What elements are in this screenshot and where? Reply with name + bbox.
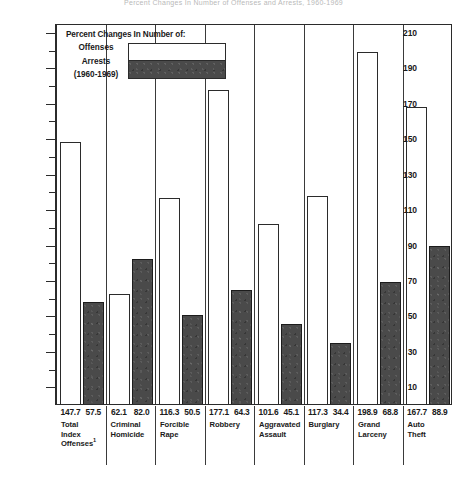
- value-arrests: 50.5: [184, 407, 200, 417]
- value-arrests: 45.1: [283, 407, 299, 417]
- y-axis-label-130: 130: [391, 170, 417, 180]
- bar-offenses-total-index-offenses: [60, 142, 81, 404]
- y-tick-minor-40: [49, 334, 55, 335]
- y-axis-label-50: 50: [391, 311, 417, 321]
- y-axis-label-170: 170: [391, 99, 417, 109]
- category-label-line: Homicide: [111, 430, 156, 440]
- value-arrests: 64.3: [234, 407, 250, 417]
- y-axis: [47, 24, 56, 405]
- value-row: 117.334.4: [304, 407, 354, 417]
- value-row: 147.757.5: [56, 407, 106, 417]
- value-row: 198.968.8: [353, 407, 403, 417]
- category-label-line: Offenses1: [61, 439, 106, 449]
- y-tick-minor-100: [49, 228, 55, 229]
- value-cell-divider: [304, 406, 305, 465]
- y-tick-major-90: [46, 246, 55, 247]
- category-label-line: Total: [61, 420, 106, 430]
- group-divider: [254, 25, 255, 404]
- legend-label-years: (1960-1969): [70, 70, 122, 79]
- group-divider: [106, 25, 107, 404]
- bar-arrests-criminal-homicide: [132, 259, 153, 404]
- y-tick-minor-120: [49, 192, 55, 193]
- y-axis-label-30: 30: [391, 347, 417, 357]
- category-label: ForcibleRape: [155, 417, 205, 439]
- y-axis-label-190: 190: [391, 63, 417, 73]
- value-offenses: 101.6: [259, 407, 279, 417]
- legend-title: Percent Changes In Number of:: [66, 30, 249, 39]
- bar-offenses-grand-larceny: [357, 52, 378, 404]
- y-tick-major-70: [46, 281, 55, 282]
- group-divider: [205, 25, 206, 404]
- value-cell-divider: [403, 406, 404, 465]
- value-offenses: 62.1: [111, 407, 127, 417]
- value-arrests: 88.9: [432, 407, 448, 417]
- value-cell-burglary: 117.334.4Burglary: [304, 405, 354, 475]
- y-tick-major-110: [46, 210, 55, 211]
- y-axis-label-10: 10: [391, 382, 417, 392]
- value-cell-robbery: 177.164.3Robbery: [205, 405, 255, 475]
- legend-labels: Offenses Arrests (1960-1969): [70, 43, 122, 79]
- category-label-line: Criminal: [111, 420, 156, 430]
- category-label-line: Auto: [408, 420, 453, 430]
- y-tick-minor-20: [49, 370, 55, 371]
- offenses-swatch: [129, 44, 225, 61]
- y-tick-major-50: [46, 316, 55, 317]
- chart-title: Percent Changes In Number of Offenses an…: [0, 0, 467, 7]
- value-offenses: 167.7: [407, 407, 427, 417]
- category-label: Robbery: [205, 417, 255, 430]
- value-cell-divider: [155, 406, 156, 465]
- bar-arrests-total-index-offenses: [83, 302, 104, 404]
- y-axis-label-90: 90: [391, 241, 417, 251]
- value-offenses: 116.3: [160, 407, 180, 417]
- bar-arrests-robbery: [231, 290, 252, 404]
- y-tick-major-150: [46, 139, 55, 140]
- y-tick-major-130: [46, 175, 55, 176]
- value-offenses: 147.7: [61, 407, 81, 417]
- value-table: 147.757.5TotalIndexOffenses162.182.0Crim…: [56, 405, 452, 475]
- legend-swatches: [128, 43, 226, 79]
- y-tick-major-210: [46, 33, 55, 34]
- y-tick-minor-180: [49, 86, 55, 87]
- category-label: CriminalHomicide: [106, 417, 156, 439]
- bar-arrests-auto-theft: [429, 246, 450, 404]
- value-cell-criminal-homicide: 62.182.0CriminalHomicide: [106, 405, 156, 475]
- value-offenses: 198.9: [358, 407, 378, 417]
- category-label-line: Larceny: [358, 430, 403, 440]
- legend-label-offenses: Offenses: [70, 43, 122, 52]
- chart-legend: Percent Changes In Number of: Offenses A…: [64, 30, 249, 79]
- bar-offenses-auto-theft: [406, 107, 427, 404]
- bar-arrests-forcible-rape: [182, 315, 203, 404]
- value-cell-aggravated-assault: 101.645.1AggravatedAssault: [254, 405, 304, 475]
- category-label: AggravatedAssault: [254, 417, 304, 439]
- value-row: 101.645.1: [254, 407, 304, 417]
- category-label-line: Aggravated: [259, 420, 304, 430]
- group-divider: [155, 25, 156, 404]
- value-arrests: 68.8: [382, 407, 398, 417]
- value-arrests: 82.0: [134, 407, 150, 417]
- category-label-line: Theft: [408, 430, 453, 440]
- arrests-swatch: [129, 61, 225, 78]
- bar-arrests-aggravated-assault: [281, 324, 302, 404]
- value-cell-auto-theft: 167.788.9AutoTheft: [403, 405, 453, 475]
- y-tick-minor-160: [49, 121, 55, 122]
- bar-offenses-criminal-homicide: [109, 294, 130, 404]
- value-cell-grand-larceny: 198.968.8GrandLarceny: [353, 405, 403, 475]
- legend-label-arrests: Arrests: [70, 57, 122, 66]
- group-divider: [304, 25, 305, 404]
- bar-arrests-burglary: [330, 343, 351, 404]
- value-cell-divider: [353, 406, 354, 465]
- y-axis-label-70: 70: [391, 276, 417, 286]
- y-tick-minor-140: [49, 157, 55, 158]
- category-label-line: Index: [61, 430, 106, 440]
- bar-offenses-aggravated-assault: [258, 224, 279, 404]
- category-label-line: Grand: [358, 420, 403, 430]
- value-cell-divider: [254, 406, 255, 465]
- value-row: 116.350.5: [155, 407, 205, 417]
- y-tick-minor-80: [49, 263, 55, 264]
- category-label: TotalIndexOffenses1: [56, 417, 106, 449]
- value-row: 167.788.9: [403, 407, 453, 417]
- bar-offenses-robbery: [208, 90, 229, 404]
- value-cell-forcible-rape: 116.350.5ForcibleRape: [155, 405, 205, 475]
- value-arrests: 34.4: [333, 407, 349, 417]
- category-label-line: Assault: [259, 430, 304, 440]
